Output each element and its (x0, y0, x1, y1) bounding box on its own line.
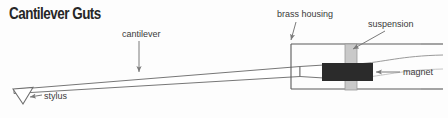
label-cantilever: cantilever (122, 30, 161, 39)
suspension-leader-line (353, 31, 385, 49)
cantilever-diagram: Cantilever Guts cantilever brass housing… (0, 0, 448, 118)
label-brass-housing: brass housing (277, 10, 333, 19)
label-magnet: magnet (403, 68, 433, 77)
brass-housing-leader-line (291, 22, 296, 40)
label-stylus: stylus (44, 92, 67, 101)
stylus-triangle (13, 88, 33, 105)
page-title: Cantilever Guts (9, 6, 101, 22)
label-suspension: suspension (368, 20, 414, 29)
stylus-leader-line (30, 95, 42, 97)
magnet-block (322, 63, 373, 81)
